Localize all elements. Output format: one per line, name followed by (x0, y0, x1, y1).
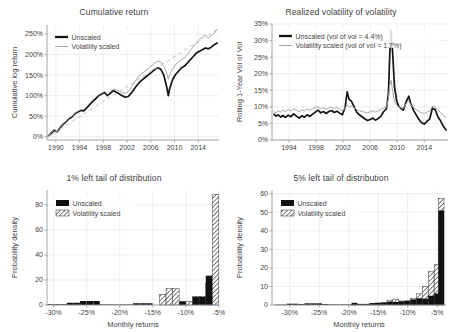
x-tick-label: -5% (431, 309, 443, 316)
x-tick-label: 2006 (362, 144, 378, 151)
legend-label: Unscaled (73, 200, 102, 207)
y-tick-label: 0 (39, 301, 43, 308)
x-axis-label: Monthly returns (107, 320, 159, 329)
x-tick-label: -15% (145, 309, 161, 316)
legend-swatch (281, 200, 294, 206)
panel-cumulative-return: Cumulative return 0%50%100%150%200%250%1… (0, 0, 228, 166)
y-tick-label: 15% (254, 87, 268, 94)
histogram-bar (399, 301, 405, 305)
y-tick-label: 50% (29, 113, 43, 120)
histogram-bar (417, 298, 423, 305)
x-tick-label: 1990 (48, 144, 64, 151)
legend-label: Volatility scaled (vol of vol = 1.7%) (296, 42, 402, 50)
legend-label: Unscaled (vol of vol = 4.4%) (296, 33, 383, 41)
x-tick-label: -25% (311, 309, 327, 316)
y-tick-label: 0 (264, 301, 268, 308)
panel-tail-5pct: 5% left tail of distribution 01020304050… (227, 166, 455, 332)
x-tick-label: -30% (282, 309, 298, 316)
y-tick-label: 40 (35, 251, 43, 258)
x-tick-label: -25% (79, 309, 95, 316)
x-tick-label: 2002 (335, 144, 351, 151)
x-tick-label: 1994 (72, 144, 88, 151)
y-tick-label: 80 (35, 201, 43, 208)
y-axis-label: Probability density (10, 217, 19, 278)
x-tick-label: -10% (399, 309, 415, 316)
histogram-bar (87, 301, 93, 305)
x-axis-label: Monthly returns (333, 320, 385, 329)
y-tick-label: 25% (254, 54, 268, 61)
legend-swatch (281, 210, 294, 216)
y-axis-label: Rolling 1-Year Vol of Vol (235, 42, 244, 123)
legend-label: Volatility scaled (72, 43, 120, 51)
legend-swatch (56, 210, 69, 216)
x-tick-label: 1998 (308, 144, 324, 151)
histogram-bar (428, 296, 434, 305)
histogram-bar (186, 301, 192, 305)
series-line-volatility-scaled-vol-of-vol-1-7 (274, 80, 446, 117)
x-tick-label: -15% (370, 309, 386, 316)
x-tick-label: 2014 (190, 144, 206, 151)
chart-realized-vol-of-vol: 0%5%10%15%20%25%30%35%199419982002200620… (227, 0, 455, 166)
figure-grid: Cumulative return 0%50%100%150%200%250%1… (0, 0, 455, 332)
legend-label: Volatility scaled (298, 210, 346, 218)
y-axis-label: Cumulative log return (10, 47, 19, 118)
histogram-bar (193, 297, 199, 305)
histogram-bar (166, 289, 172, 305)
x-tick-label: 1998 (96, 144, 112, 151)
legend-label: Unscaled (72, 34, 101, 41)
chart-tail-1pct: 020406080-30%-25%-20%-15%-10%-5%Probabil… (0, 166, 228, 332)
y-tick-label: 250% (25, 30, 43, 37)
y-tick-label: 30 (260, 246, 268, 253)
y-tick-label: 50 (260, 209, 268, 216)
histogram-bar (173, 289, 179, 305)
legend-swatch (56, 200, 69, 206)
x-tick-label: 2006 (143, 144, 159, 151)
histogram-bar (411, 299, 417, 305)
legend: Unscaled (vol of vol = 4.4%)Volatility s… (276, 29, 440, 50)
y-tick-label: 150% (25, 72, 43, 79)
y-tick-label: 20 (260, 264, 268, 271)
y-axis-label: Probability density (235, 217, 244, 278)
y-tick-label: 60 (260, 190, 268, 197)
y-tick-label: 35% (254, 20, 268, 27)
chart-cumulative-return: 0%50%100%150%200%250%1990199419982002200… (0, 0, 228, 166)
x-tick-label: -30% (45, 309, 61, 316)
y-tick-label: 0% (33, 133, 43, 140)
legend-label: Unscaled (298, 200, 327, 207)
y-tick-label: 100% (25, 92, 43, 99)
y-tick-label: 20% (254, 70, 268, 77)
y-tick-label: 60 (35, 226, 43, 233)
histogram-bar (438, 210, 444, 305)
y-tick-label: 40 (260, 227, 268, 234)
histogram-bar (212, 194, 218, 305)
x-tick-label: -20% (112, 309, 128, 316)
y-tick-label: 0% (258, 136, 268, 143)
x-tick-label: -10% (178, 309, 194, 316)
chart-tail-5pct: 0102030405060-30%-25%-20%-15%-10%-5%Prob… (227, 166, 455, 332)
x-tick-label: -5% (213, 309, 225, 316)
y-tick-label: 20 (35, 276, 43, 283)
x-tick-label: 2010 (167, 144, 183, 151)
histogram-bar (387, 302, 393, 305)
x-tick-label: 2002 (119, 144, 135, 151)
histogram-bar (206, 276, 212, 305)
histogram-bar (422, 299, 428, 305)
histogram-bar (179, 301, 185, 305)
legend: UnscaledVolatility scaled (52, 30, 130, 51)
x-tick-label: 1994 (281, 144, 297, 151)
x-tick-label: 2010 (389, 144, 405, 151)
y-tick-label: 200% (25, 51, 43, 58)
y-tick-label: 10% (254, 103, 268, 110)
histogram-bar (405, 301, 411, 305)
histogram-bar (199, 297, 205, 305)
histogram-bar (159, 294, 165, 305)
series-line-unscaled (48, 43, 217, 136)
panel-tail-1pct: 1% left tail of distribution 020406080-3… (0, 166, 228, 332)
y-tick-label: 10 (260, 283, 268, 290)
y-tick-label: 5% (258, 120, 268, 127)
y-tick-label: 30% (254, 37, 268, 44)
legend: UnscaledVolatility scaled (278, 197, 360, 218)
x-tick-label: 2014 (417, 144, 433, 151)
histogram-bar (80, 301, 86, 305)
legend-label: Volatility scaled (73, 210, 121, 218)
